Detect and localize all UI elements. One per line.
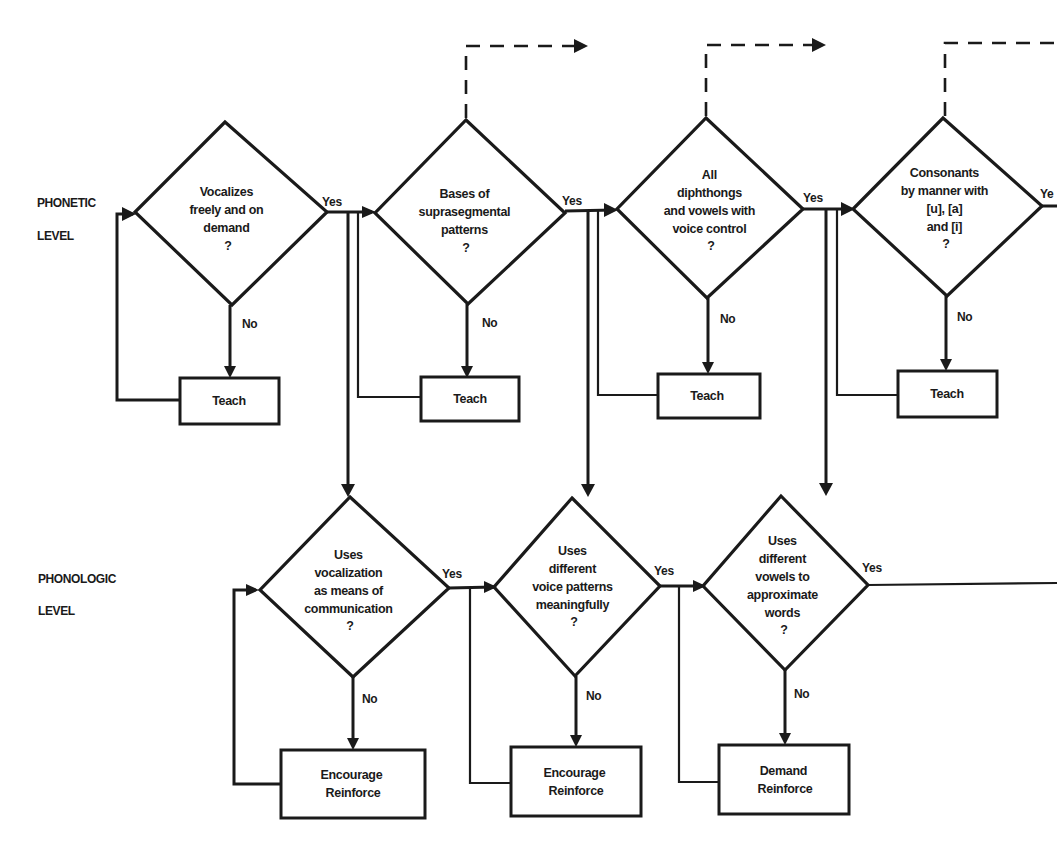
node-text-line: and [i] [927,220,963,234]
node-text-line: vowels to [755,570,810,584]
node-text-line: Reinforce [549,784,604,798]
node-text-line: All [702,168,717,182]
action-teach-3: Teach [658,374,760,418]
node-text-line: different [759,552,807,566]
arrow-right-icon [122,207,136,221]
node-text-line: Teach [930,387,964,401]
edge-label-no: No [482,316,497,330]
node-text-line: ? [707,239,714,253]
level-label-line1: PHONOLOGIC [38,572,117,586]
dashed-connector-2 [706,38,826,116]
node-text-line: diphthongs [677,186,742,200]
arrow-right-icon [812,38,826,52]
action-demand-reinforce: Demand Reinforce [719,745,849,814]
edge-label-yes: Yes [803,191,823,205]
edge-label-yes: Yes [654,564,674,578]
action-encourage-reinforce-2: Encourage Reinforce [511,747,641,816]
node-text-line: Bases of [440,187,491,201]
node-text-line: ? [780,623,787,637]
level-label-line2: LEVEL [38,604,75,618]
node-text-line: Reinforce [758,782,813,796]
node-text-line: Uses [768,534,797,548]
arrow-down-icon [581,484,595,497]
arrow-right-icon [574,39,588,53]
edge-label-no: No [720,312,735,326]
node-text-line: Uses [558,544,587,558]
node-text-line: Teach [212,394,246,408]
decision-voice-patterns-meaningfully: Uses different voice patterns meaningful… [494,498,660,676]
edge-label-yes: Yes [442,567,462,581]
node-text-line: demand [203,221,249,235]
arrow-down-icon [570,735,582,747]
arrow-down-icon [779,733,791,745]
action-teach-4: Teach [898,371,997,417]
edge-label-no: No [242,317,257,331]
decision-diphthongs-vowels: All diphthongs and vowels with voice con… [617,118,803,298]
node-text-line: ? [224,239,231,253]
action-encourage-reinforce-1: Encourage Reinforce [281,750,425,818]
svg-text:Uses vocalization: Uses vocalization as means of communicat… [304,548,396,633]
node-text-line: Consonants [910,166,980,180]
decision-vocalizes-freely: Vocalizes freely and on demand ? [135,122,327,305]
node-text-line: by manner with [901,184,988,198]
node-text-line: voice control [672,222,746,236]
node-text-line: suprasegmental [419,205,511,219]
node-text-line: Demand [760,764,808,778]
svg-text:Consonants by manner wit: Consonants by manner with [u], [a] and [… [901,166,992,251]
decision-consonants-by-manner: Consonants by manner with [u], [a] and [… [853,118,1042,296]
edge-label-no: No [794,687,809,701]
edge-label-yes-truncated: Ye [1040,187,1054,201]
decision-vowels-approximate-words: Uses different vowels to approximate wor… [703,496,868,670]
node-text-line: ? [570,615,577,629]
level-label-line1: PHONETIC [37,196,97,210]
arrow-right-icon [246,584,259,596]
node-text-line: communication [304,602,392,616]
edge-label-yes: Yes [322,195,342,209]
edge-label-no: No [586,689,601,703]
node-text-line: ? [942,237,949,251]
node-text-line: vocalization [314,566,382,580]
node-text-line: voice patterns [532,580,613,594]
action-teach-1: Teach [180,378,279,424]
arrow-down-icon [224,366,236,378]
arrow-down-icon [702,362,714,374]
svg-text:All diphthongs and: All diphthongs and vowels with voice con… [664,168,759,253]
svg-text:Bases of suprasegmental: Bases of suprasegmental patterns ? [419,187,514,255]
node-text-line: freely and on [189,203,263,217]
node-text-line: words [764,606,801,620]
decision-suprasegmental: Bases of suprasegmental patterns ? [375,120,565,304]
arrow-down-icon [341,484,355,497]
edge-label-no: No [362,692,377,706]
node-text-line: Vocalizes [200,185,254,199]
svg-text:Uses different vow: Uses different vowels to approximate wor… [747,534,821,637]
node-text-line: approximate [747,588,818,602]
arrow-down-icon [819,483,833,496]
edge-label-no: No [957,310,972,324]
node-text-line: Uses [334,548,363,562]
flowchart-canvas: PHONETIC LEVEL PHONOLOGIC LEVEL Vocalize… [0,0,1057,863]
action-teach-2: Teach [421,377,519,421]
node-text-line: Teach [690,389,724,403]
node-text-line: and vowels with [664,204,755,218]
dashed-connector-3 [945,43,1057,116]
dashed-connector-1 [466,39,588,118]
arrow-down-icon [347,738,359,750]
level-label-phonetic: PHONETIC LEVEL [37,196,97,243]
svg-text:Uses different voi: Uses different voice patterns meaningful… [532,544,616,629]
node-text-line: meaningfully [536,598,610,612]
decision-vocalization-communication: Uses vocalization as means of communicat… [260,497,449,677]
level-label-line2: LEVEL [37,229,74,243]
node-text-line: as means of [314,584,384,598]
svg-text:Vocalizes freely and on: Vocalizes freely and on demand ? [189,185,266,253]
node-text-line: different [549,562,597,576]
node-text-line: ? [462,241,469,255]
node-text-line: [u], [a] [927,202,963,216]
edge-label-yes: Yes [862,561,882,575]
edge-label-yes: Yes [562,194,582,208]
node-text-line: ? [346,619,353,633]
node-text-line: patterns [441,223,488,237]
node-text-line: Teach [453,392,487,406]
node-text-line: Encourage [320,768,382,782]
node-text-line: Reinforce [326,786,381,800]
arrow-down-icon [940,359,952,371]
